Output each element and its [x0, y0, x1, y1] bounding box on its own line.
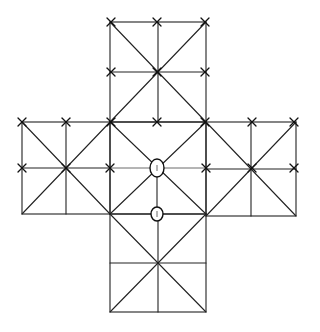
cross-grid-diagram — [0, 0, 320, 332]
diagram-svg — [0, 0, 320, 332]
